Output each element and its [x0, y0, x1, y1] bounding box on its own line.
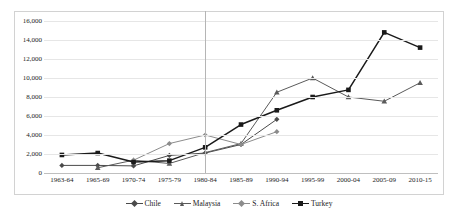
legend-item-turkey[interactable]: Turkey: [292, 199, 332, 208]
x-axis-tick-label: 1965-69: [86, 176, 109, 185]
data-point-marker: [274, 129, 279, 134]
gridline: [44, 40, 438, 41]
gridline: [44, 173, 438, 174]
y-axis-tick-label: 14,000: [4, 37, 42, 44]
legend-label: Chile: [145, 199, 161, 208]
legend-item-s-africa[interactable]: S. Africa: [233, 199, 279, 208]
y-axis-tick-label: 16,000: [4, 18, 42, 25]
legend-swatch-diamond-icon: [126, 199, 143, 207]
chart-legend: ChileMalaysiaS. AfricaTurkey: [14, 196, 444, 210]
data-point-marker: [382, 30, 387, 35]
gridline: [44, 135, 438, 136]
x-axis: 1963-641965-691970-741975-791980-841985-…: [44, 176, 438, 188]
x-axis-tick-label: 1980-84: [194, 176, 217, 185]
x-axis-tick-label: 2005-09: [373, 176, 396, 185]
data-point-marker: [131, 160, 136, 165]
gridline: [44, 116, 438, 117]
legend-label: Malaysia: [193, 199, 221, 208]
y-axis-tick-label: 2,000: [4, 151, 42, 158]
y-axis: 02,0004,0006,0008,00010,00012,00014,0001…: [0, 21, 42, 173]
y-axis-tick-label: 10,000: [4, 75, 42, 82]
data-point-marker: [239, 122, 244, 127]
gridline: [44, 21, 438, 22]
y-axis-tick-label: 8,000: [4, 94, 42, 101]
data-point-marker: [167, 158, 172, 163]
gridline: [44, 97, 438, 98]
x-axis-tick-label: 2010-15: [408, 176, 431, 185]
line-chart: 02,0004,0006,0008,00010,00012,00014,0001…: [0, 0, 453, 220]
data-point-marker: [417, 80, 423, 85]
x-axis-tick-label: 1975-79: [158, 176, 181, 185]
x-axis-tick-label: 1985-89: [229, 176, 252, 185]
data-point-marker: [346, 88, 351, 93]
plot-area: [44, 21, 438, 173]
data-point-marker: [418, 45, 423, 50]
legend-swatch-triangle-icon: [174, 199, 191, 207]
legend-item-chile[interactable]: Chile: [126, 199, 161, 208]
y-axis-tick-label: 12,000: [4, 56, 42, 63]
y-axis-tick-label: 6,000: [4, 113, 42, 120]
y-axis-tick-label: 0: [4, 170, 42, 177]
data-point-marker: [167, 141, 172, 146]
data-point-marker: [275, 108, 280, 113]
x-axis-tick-label: 1963-64: [50, 176, 73, 185]
legend-swatch-diamond-icon: [233, 199, 250, 207]
reference-line-1980-84: [205, 11, 206, 173]
y-axis-tick-label: 4,000: [4, 132, 42, 139]
gridline: [44, 154, 438, 155]
x-axis-tick-label: 1970-74: [122, 176, 145, 185]
gridline: [44, 78, 438, 79]
x-axis-tick-label: 1990-94: [265, 176, 288, 185]
gridline: [44, 59, 438, 60]
legend-item-malaysia[interactable]: Malaysia: [174, 199, 221, 208]
legend-label: S. Africa: [252, 199, 279, 208]
data-point-marker: [59, 163, 64, 168]
legend-label: Turkey: [311, 199, 332, 208]
x-axis-tick-label: 1995-99: [301, 176, 324, 185]
legend-swatch-square-icon: [292, 199, 309, 207]
x-axis-tick-label: 2000-04: [337, 176, 360, 185]
